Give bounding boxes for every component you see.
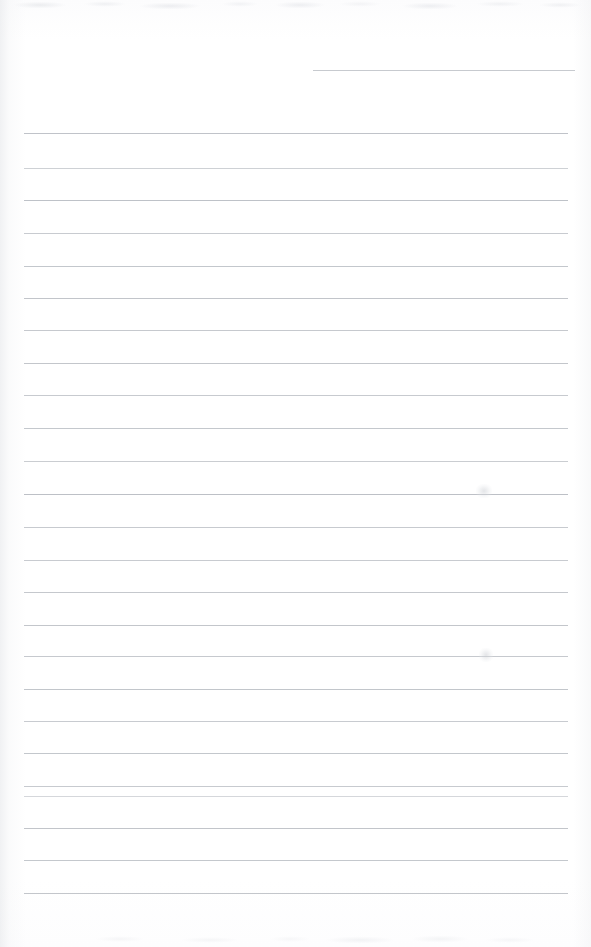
ruled-line — [24, 461, 568, 462]
ruled-line — [24, 796, 568, 797]
ruled-line — [24, 298, 568, 299]
ruled-line — [24, 266, 568, 267]
ruled-line — [24, 133, 568, 134]
paper-surface — [0, 0, 591, 947]
ruled-line — [24, 721, 568, 722]
ruled-line — [24, 330, 568, 331]
ruled-line — [24, 494, 568, 495]
scanned-page — [0, 0, 591, 947]
ruled-line — [24, 395, 568, 396]
ruled-line — [24, 527, 568, 528]
ruled-line — [24, 893, 568, 894]
ruled-line — [24, 786, 568, 787]
ruled-line — [24, 200, 568, 201]
ruled-line — [24, 689, 568, 690]
ruled-line — [24, 625, 568, 626]
ruled-line — [24, 233, 568, 234]
ruled-line — [24, 428, 568, 429]
ruled-line-partial — [313, 70, 575, 71]
ruled-line — [24, 592, 568, 593]
ruled-line — [24, 860, 568, 861]
ruled-line — [24, 560, 568, 561]
ruled-line — [24, 168, 568, 169]
ruled-line — [24, 656, 568, 657]
ruled-line — [24, 753, 568, 754]
ruled-line — [24, 363, 568, 364]
ruled-line — [24, 828, 568, 829]
